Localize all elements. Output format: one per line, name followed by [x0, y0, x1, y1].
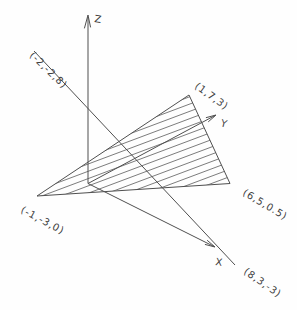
triangle-plane: [37, 95, 230, 196]
hatch-line: [30, 129, 240, 208]
hatch-line: [30, 100, 240, 179]
y-axis-label: Y: [219, 117, 230, 130]
point-label-line-end: (8,3,-3): [242, 266, 284, 300]
hatch-line: [30, 136, 240, 215]
hatch-line: [30, 151, 240, 230]
diagram-page: Z Y X (-2,-2,8) (1,7,3) (6,5,0.5) (-1,-3…: [0, 0, 297, 310]
diagram-canvas: Z Y X (-2,-2,8) (1,7,3) (6,5,0.5) (-1,-3…: [0, 0, 297, 310]
hatch-line: [30, 144, 240, 223]
point-label-triangle-left: (-1,-3,0): [19, 204, 66, 236]
point-label-line-start: (-2,-2,8): [28, 50, 70, 91]
point-label-triangle-top: (1,7,3): [193, 80, 231, 112]
point-label-triangle-right: (6,5,0.5): [241, 187, 290, 222]
x-axis-line: [88, 184, 214, 247]
y-axis-arrowhead-icon: [206, 115, 216, 122]
x-axis-label: X: [215, 256, 223, 268]
hatch-line: [30, 93, 240, 172]
z-axis-label: Z: [94, 13, 102, 25]
hatch-line: [30, 114, 240, 193]
hatch-line: [30, 122, 240, 201]
